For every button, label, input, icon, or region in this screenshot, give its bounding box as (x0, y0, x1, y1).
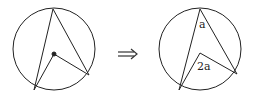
left-inscribed-angle (34, 9, 89, 90)
label-inscribed-angle: a (199, 18, 206, 31)
implies-arrow-icon (118, 49, 137, 59)
right-inscribed-angle (179, 9, 237, 90)
inscribed-angle-diagram: a 2a (0, 0, 253, 99)
left-circle (13, 8, 95, 90)
label-central-angle: 2a (197, 60, 211, 73)
center-dot (52, 52, 56, 56)
left-figure (13, 8, 95, 90)
